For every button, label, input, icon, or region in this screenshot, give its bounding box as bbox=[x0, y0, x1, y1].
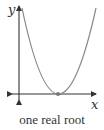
caption: one real root bbox=[0, 113, 104, 126]
graph-svg bbox=[0, 0, 104, 130]
root-point bbox=[56, 92, 60, 96]
parabola-curve bbox=[22, 8, 96, 94]
parabola-diagram: y x one real root bbox=[0, 0, 104, 130]
x-axis-label: x bbox=[91, 98, 98, 111]
y-axis-label: y bbox=[8, 3, 15, 16]
